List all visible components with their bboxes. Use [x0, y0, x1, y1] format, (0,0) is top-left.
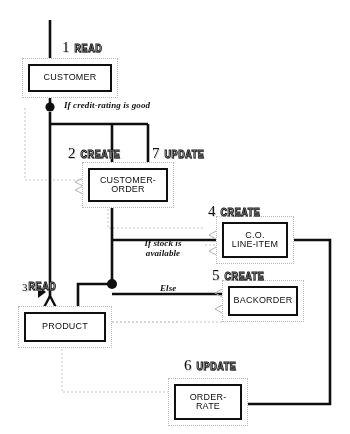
- action-label-6[interactable]: 6 UPDATE: [184, 358, 236, 373]
- entity-customer-order[interactable]: CUSTOMER- ORDER: [82, 162, 174, 208]
- action-diagram: CUSTOMER CUSTOMER- ORDER C.O. LINE-ITEM …: [0, 0, 350, 434]
- action-label-7[interactable]: 7 UPDATE: [152, 146, 204, 161]
- entity-label: ORDER- RATE: [188, 392, 229, 412]
- junction-dot-credit: [45, 102, 54, 111]
- condition-credit-rating: If credit-rating is good: [64, 100, 150, 110]
- entity-box: CUSTOMER: [28, 64, 112, 92]
- entity-box: CUSTOMER- ORDER: [88, 168, 168, 202]
- condition-else: Else: [160, 283, 176, 293]
- action-verb: CREATE: [81, 150, 121, 161]
- action-label-4[interactable]: 4 CREATE: [208, 204, 260, 219]
- action-number: 6: [184, 358, 192, 373]
- action-number: 7: [152, 146, 160, 161]
- action-label-1[interactable]: 1 READ: [62, 40, 102, 55]
- entity-backorder[interactable]: BACKORDER: [222, 280, 304, 322]
- action-number: 2: [68, 146, 76, 161]
- action-verb: READ: [29, 282, 57, 293]
- action-verb: CREATE: [221, 208, 261, 219]
- action-verb: CREATE: [225, 272, 265, 283]
- entity-product[interactable]: PRODUCT: [18, 306, 112, 348]
- entity-label: BACKORDER: [232, 296, 295, 306]
- action-number: 5: [212, 268, 220, 283]
- entity-box: ORDER- RATE: [174, 384, 242, 420]
- action-number: 4: [208, 204, 216, 219]
- entity-box: C.O. LINE-ITEM: [222, 222, 288, 258]
- entity-order-rate[interactable]: ORDER- RATE: [168, 378, 248, 426]
- entity-label: CUSTOMER: [42, 73, 99, 83]
- action-verb: READ: [75, 44, 103, 55]
- junction-dot-stock: [107, 279, 117, 289]
- action-verb: UPDATE: [197, 362, 237, 373]
- entity-label: C.O. LINE-ITEM: [230, 230, 280, 250]
- entity-label: PRODUCT: [40, 322, 90, 332]
- entity-customer[interactable]: CUSTOMER: [22, 58, 118, 98]
- action-verb: UPDATE: [165, 150, 205, 161]
- entity-box: BACKORDER: [228, 286, 298, 316]
- action-number: 1: [62, 40, 70, 55]
- entity-co-line-item[interactable]: C.O. LINE-ITEM: [216, 216, 294, 264]
- action-label-3[interactable]: 3 READ: [22, 282, 56, 293]
- entity-box: PRODUCT: [24, 312, 106, 342]
- condition-stock-available: If stock is available: [120, 238, 206, 259]
- action-label-2[interactable]: 2 CREATE: [68, 146, 120, 161]
- action-label-5[interactable]: 5 CREATE: [212, 268, 264, 283]
- action-number: 3: [22, 282, 28, 293]
- entity-label: CUSTOMER- ORDER: [98, 175, 158, 195]
